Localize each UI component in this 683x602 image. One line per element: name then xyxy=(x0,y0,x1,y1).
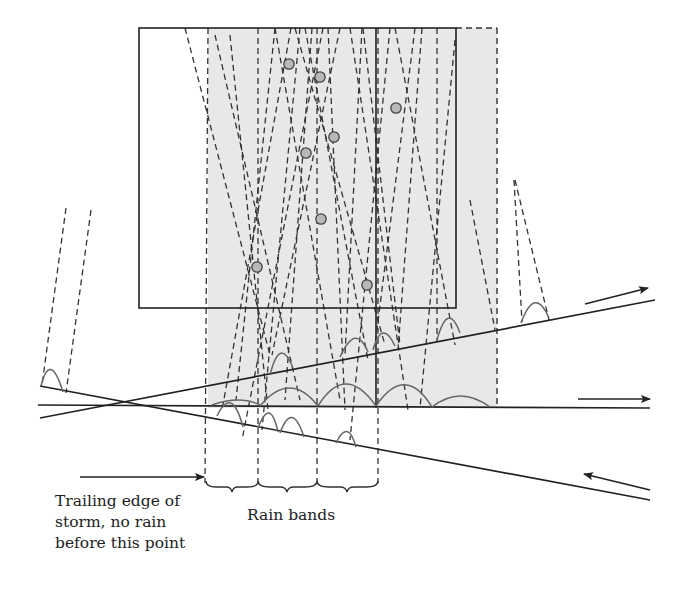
raindrop xyxy=(284,59,294,69)
upper-direction-arrow xyxy=(585,288,648,304)
trailing-edge-label: Trailing edge of storm, no rain before t… xyxy=(55,491,225,554)
brace-band-3 xyxy=(317,481,378,492)
raindrop xyxy=(316,214,326,224)
brace-band-2 xyxy=(258,481,317,492)
raindrop xyxy=(252,262,262,272)
raindrop xyxy=(362,280,372,290)
raindrop xyxy=(301,148,311,158)
raindrop xyxy=(391,103,401,113)
raindrop xyxy=(315,72,325,82)
trailing-label-line-3: before this point xyxy=(55,533,225,554)
lower-direction-arrow xyxy=(584,474,650,490)
trailing-label-line-1: Trailing edge of xyxy=(55,491,225,512)
raindrop xyxy=(329,132,339,142)
rain-bands-label: Rain bands xyxy=(247,505,335,526)
rain-band-braces xyxy=(206,481,378,492)
trailing-label-line-2: storm, no rain xyxy=(55,512,225,533)
